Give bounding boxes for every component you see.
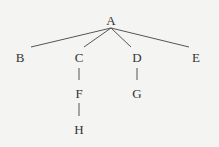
node-a: A xyxy=(106,14,115,27)
node-d: D xyxy=(132,51,141,64)
node-e: E xyxy=(192,51,200,64)
node-h: H xyxy=(74,123,83,136)
edge-a-b xyxy=(31,28,111,47)
node-c: C xyxy=(75,51,84,64)
edge-a-e xyxy=(111,28,189,47)
node-g: G xyxy=(132,87,141,100)
node-f: F xyxy=(75,87,82,100)
node-b: B xyxy=(16,51,25,64)
